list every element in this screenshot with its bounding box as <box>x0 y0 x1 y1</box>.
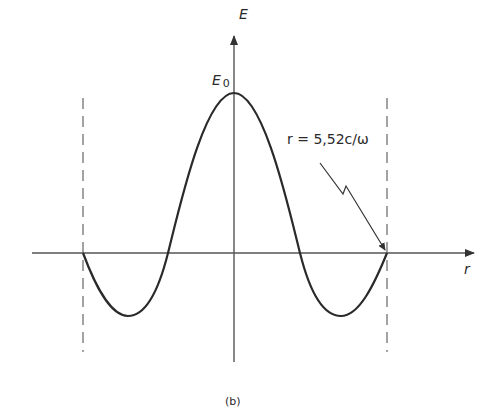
peak-label-subscript: 0 <box>223 77 230 90</box>
diagram-canvas <box>0 0 502 418</box>
boundary-annotation: r = 5,52c/ω <box>287 132 369 146</box>
field-curve <box>83 93 387 316</box>
r-axis-label: r <box>464 262 470 276</box>
peak-label: E0 <box>212 73 230 87</box>
peak-label-main: E <box>212 72 221 88</box>
annotation-arrow <box>320 163 385 250</box>
e-axis-label: E <box>239 7 248 21</box>
figure-caption: (b) <box>225 396 241 407</box>
